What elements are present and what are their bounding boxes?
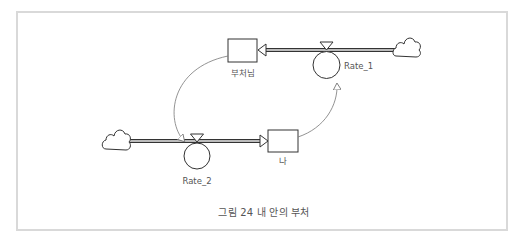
- flow-pipe-rate-1: [266, 49, 395, 52]
- flow-rate-2[interactable]: [184, 143, 210, 169]
- figure-caption: 그림 24 내 안의 부처: [0, 204, 528, 219]
- stock-buddha[interactable]: [228, 39, 257, 62]
- cloud-icon: [102, 130, 130, 150]
- cloud-icon: [393, 38, 420, 57]
- connector-me-to-rate-1[interactable]: [298, 84, 337, 137]
- stock-me-label: 나: [279, 156, 287, 166]
- flow-arrowhead-icon: [260, 135, 268, 147]
- flow-rate-1[interactable]: [313, 52, 340, 79]
- flow-arrowhead-icon: [258, 44, 266, 56]
- stock-buddha-label: 부처님: [231, 68, 255, 78]
- flow-rate-1-label: Rate_1: [344, 61, 373, 71]
- flow-rate-2-label: Rate_2: [182, 176, 211, 186]
- stock-me[interactable]: [268, 130, 298, 152]
- connector-buddha-to-rate-2[interactable]: [174, 56, 228, 141]
